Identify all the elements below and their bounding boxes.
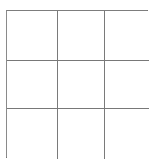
grid-cell[interactable] xyxy=(7,11,58,61)
grid-cell[interactable] xyxy=(58,11,105,61)
grid-container xyxy=(6,10,148,158)
three-by-three-grid xyxy=(6,10,148,158)
grid-cell[interactable] xyxy=(7,61,58,109)
grid-cell[interactable] xyxy=(105,61,149,109)
grid-cell[interactable] xyxy=(7,109,58,159)
canvas xyxy=(0,0,155,164)
grid-cell[interactable] xyxy=(58,61,105,109)
grid-cell[interactable] xyxy=(58,109,105,159)
grid-cell[interactable] xyxy=(105,11,149,61)
grid-cell[interactable] xyxy=(105,109,149,159)
